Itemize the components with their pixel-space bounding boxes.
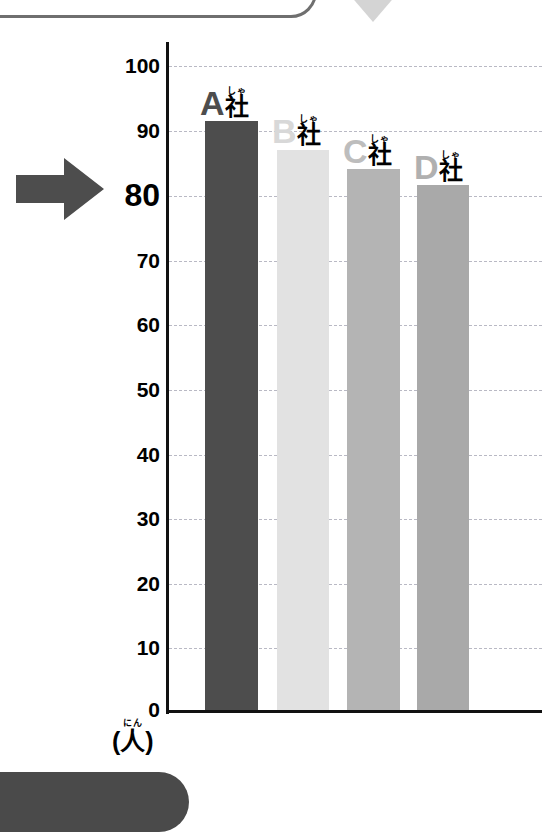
bar-d-suffix-text: 社 [439,159,463,183]
bar-c[interactable] [347,169,400,710]
bars-layer [0,0,542,710]
bar-b-suffix-text: 社 [297,123,321,147]
bar-c-letter: C [343,132,368,170]
bar-a-suffix-text: 社 [225,95,249,119]
bar-label-a: Aしゃ社 [200,86,249,120]
bar-a-suffix-ruby: しゃ社 [225,87,249,119]
bar-b-suffix-ruby: しゃ社 [297,115,321,147]
y-axis-unit-label: にん (人) [112,718,154,754]
bar-b[interactable] [277,150,329,710]
bar-label-d: Dしゃ社 [414,150,463,184]
bar-b-letter: B [272,112,297,150]
bar-d[interactable] [417,185,469,710]
bar-d-suffix-ruby: しゃ社 [439,151,463,183]
bar-a-letter: A [200,84,225,122]
bar-label-b: Bしゃ社 [272,114,321,148]
y-axis-unit-text: (人) [112,728,154,754]
bar-label-c: Cしゃ社 [343,134,392,168]
bar-d-letter: D [414,148,439,186]
bar-c-suffix-text: 社 [368,143,392,167]
bar-a[interactable] [205,121,258,710]
bar-c-suffix-ruby: しゃ社 [368,135,392,167]
x-axis-baseline [166,710,542,713]
